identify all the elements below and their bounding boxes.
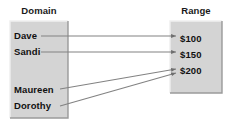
domain-item-sandi: Sandi: [14, 47, 40, 57]
domain-item-maureen: Maureen: [14, 85, 54, 95]
range-caption: Range: [170, 5, 222, 16]
domain-caption: Domain: [10, 5, 68, 16]
range-item-100: $100: [180, 34, 202, 44]
arrow-dorothy-to-200: [60, 73, 176, 106]
arrow-maureen-to-200: [60, 69, 176, 89]
range-item-200: $200: [180, 66, 202, 76]
domain-item-dave: Dave: [14, 31, 37, 41]
domain-item-dorothy: Dorothy: [14, 101, 51, 111]
range-item-150: $150: [180, 50, 202, 60]
mapping-diagram: Domain Range Dave Sandi Maureen Dorothy …: [0, 0, 240, 128]
